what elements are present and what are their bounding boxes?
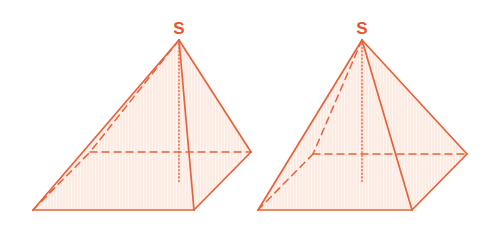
- apex-label: S: [356, 19, 367, 38]
- pyramid-left: S: [33, 19, 251, 210]
- apex-label: S: [173, 19, 184, 38]
- pyramid-right: S: [258, 19, 467, 210]
- pyramid-base-fill: [33, 152, 251, 210]
- pyramids-diagram: S S: [0, 0, 497, 229]
